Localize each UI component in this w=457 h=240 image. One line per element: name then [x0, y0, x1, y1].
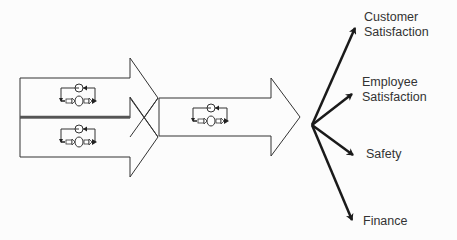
outcome-label-safety: Safety — [366, 147, 401, 162]
label-line: Satisfaction — [362, 90, 427, 105]
outcome-label-employee-satisfaction: Employee Satisfaction — [362, 75, 427, 105]
label-line: Finance — [363, 214, 407, 229]
label-line: Customer — [364, 10, 429, 25]
label-line: Employee — [362, 75, 427, 90]
outcome-label-finance: Finance — [363, 214, 407, 229]
label-line: Safety — [366, 147, 401, 162]
outcome-label-customer-satisfaction: Customer Satisfaction — [364, 10, 429, 40]
outcome-arrows — [312, 28, 355, 220]
arrow-customer-satisfaction — [312, 28, 355, 125]
label-line: Satisfaction — [364, 25, 429, 40]
combined-arrow — [159, 78, 300, 156]
